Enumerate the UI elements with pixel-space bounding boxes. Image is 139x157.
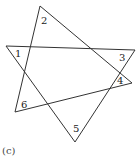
- figure-caption: (c): [2, 145, 16, 156]
- angle-label-2: 2: [41, 15, 47, 26]
- star-figure: 1 2 3 4 5 6 (c): [0, 0, 139, 157]
- line-right-to-bottom: [75, 50, 135, 142]
- angle-label-6: 6: [21, 99, 27, 110]
- angle-label-5: 5: [73, 123, 79, 134]
- angle-label-1: 1: [15, 48, 21, 59]
- line-left-to-right: [6, 46, 135, 50]
- line-top-to-bottom-left: [15, 6, 40, 112]
- angle-label-4: 4: [117, 75, 123, 86]
- angle-label-3: 3: [119, 52, 125, 63]
- line-top-to-right-lower: [40, 6, 132, 83]
- line-bottom-left-to-right-lower: [15, 83, 132, 112]
- line-left-to-bottom: [6, 46, 75, 142]
